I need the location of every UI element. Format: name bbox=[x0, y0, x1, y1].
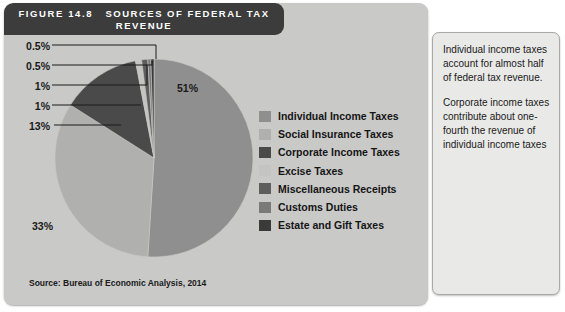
legend-label: Corporate Income Taxes bbox=[278, 146, 400, 158]
pct-label-excise-taxes: 1% bbox=[12, 100, 50, 112]
legend-label: Excise Taxes bbox=[278, 165, 343, 177]
legend-row: Excise Taxes bbox=[259, 162, 424, 180]
legend-swatch bbox=[259, 202, 271, 213]
pct-label-individual-income-taxes: 51% bbox=[177, 82, 217, 94]
legend-swatch bbox=[259, 165, 271, 176]
legend-swatch bbox=[259, 129, 271, 140]
legend-row: Individual Income Taxes bbox=[259, 107, 424, 125]
figure-title: SOURCES OF FEDERAL TAX REVENUE bbox=[105, 8, 269, 31]
figure-number: FIGURE 14.8 bbox=[18, 8, 93, 19]
legend-row: Social Insurance Taxes bbox=[259, 125, 424, 143]
legend-row: Miscellaneous Receipts bbox=[259, 180, 424, 198]
chart-panel: 0.5% 0.5% 1% 1% 13% 51% 33% Individual I… bbox=[4, 35, 428, 305]
legend-label: Individual Income Taxes bbox=[278, 110, 399, 122]
legend-swatch bbox=[259, 147, 271, 158]
legend-row: Corporate Income Taxes bbox=[259, 143, 424, 161]
side-note-paragraph-2: Corporate income taxes contribute about … bbox=[443, 96, 550, 153]
pie-chart bbox=[54, 58, 254, 258]
leader-line-estate-gift bbox=[52, 45, 156, 59]
figure-title-bar: FIGURE 14.8 SOURCES OF FEDERAL TAX REVEN… bbox=[4, 3, 284, 35]
source-note: Source: Bureau of Economic Analysis, 201… bbox=[29, 278, 206, 288]
pct-label-corporate-income-taxes: 13% bbox=[6, 120, 50, 132]
pct-label-estate-gift: 0.5% bbox=[12, 40, 50, 52]
legend-swatch bbox=[259, 183, 271, 194]
side-note-paragraph-1: Individual income taxes account for almo… bbox=[443, 43, 550, 86]
figure-card: FIGURE 14.8 SOURCES OF FEDERAL TAX REVEN… bbox=[4, 3, 428, 305]
legend-label: Customs Duties bbox=[278, 201, 358, 213]
legend-row: Customs Duties bbox=[259, 198, 424, 216]
pct-label-customs-duties: 0.5% bbox=[12, 60, 50, 72]
chart-legend: Individual Income TaxesSocial Insurance … bbox=[259, 107, 424, 234]
pie-svg bbox=[54, 58, 254, 258]
legend-label: Miscellaneous Receipts bbox=[278, 183, 396, 195]
legend-row: Estate and Gift Taxes bbox=[259, 216, 424, 234]
side-note-panel: Individual income taxes account for almo… bbox=[432, 32, 560, 295]
pie-slices bbox=[55, 59, 253, 257]
legend-label: Estate and Gift Taxes bbox=[278, 219, 384, 231]
pct-label-miscellaneous-receipts: 1% bbox=[12, 80, 50, 92]
legend-swatch bbox=[259, 220, 271, 231]
legend-label: Social Insurance Taxes bbox=[278, 128, 393, 140]
pct-label-social-insurance-taxes: 33% bbox=[32, 220, 72, 232]
legend-swatch bbox=[259, 111, 271, 122]
